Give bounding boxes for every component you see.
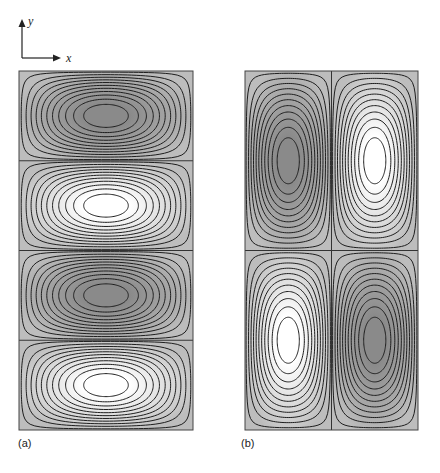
axes-indicator xyxy=(19,19,62,62)
cell-light xyxy=(19,161,193,251)
cell-fill xyxy=(19,71,193,161)
cell-light xyxy=(332,71,419,251)
cell-dark xyxy=(332,251,419,431)
cell-fill xyxy=(332,71,419,251)
x-axis-label: x xyxy=(66,51,71,66)
cell-fill xyxy=(245,251,332,431)
cell-fill xyxy=(332,251,419,431)
panel-a xyxy=(19,71,193,430)
cell-fill xyxy=(245,71,332,251)
panel-b xyxy=(245,71,418,430)
cell-light xyxy=(19,340,193,430)
cell-dark xyxy=(19,71,193,161)
figure xyxy=(0,0,440,473)
cell-light xyxy=(245,251,332,431)
cell-dark xyxy=(19,251,193,341)
panel-b-label: (b) xyxy=(241,437,254,449)
panel-a-label: (a) xyxy=(18,437,31,449)
cell-fill xyxy=(19,251,193,341)
y-axis-label: y xyxy=(28,14,33,29)
cell-fill xyxy=(19,161,193,251)
cell-dark xyxy=(245,71,332,251)
x-arrow-icon xyxy=(53,55,61,62)
y-arrow-icon xyxy=(19,19,26,27)
cell-fill xyxy=(19,340,193,430)
